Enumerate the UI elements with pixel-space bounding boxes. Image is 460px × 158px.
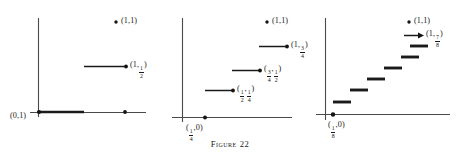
panel-1-dot-half	[124, 65, 128, 69]
panel-1-dot-right-base	[123, 110, 127, 114]
panel-3-label-one-one: (1,1)	[414, 17, 430, 25]
panel-1-label-one-half: (1,12)	[130, 61, 147, 79]
figure-caption-number: 22	[240, 139, 250, 149]
panel-2-dot-half-quarter	[231, 89, 235, 93]
panel-2-dot-one-one	[265, 20, 268, 23]
panel-3-dot-one-one	[407, 20, 410, 23]
panel-2-dot-quarter-zero	[203, 116, 207, 120]
panel-3-arrowhead	[418, 32, 424, 38]
panel-1-dot-one-one	[114, 20, 117, 23]
panel-1-label-one-one: (1,1)	[121, 17, 137, 25]
panel-1-group	[30, 18, 146, 117]
panel-2-label-one-threequarters: (1,34)	[291, 41, 308, 59]
figure-caption-word: Figure	[211, 139, 237, 149]
panel-3-label-one-seveneighths: (1,78)	[426, 30, 443, 48]
figure-caption: Figure22	[0, 139, 460, 149]
panel-3-dot-eighth-zero	[331, 112, 335, 116]
panel-2-label-half-quarter: (12,14)	[237, 85, 254, 103]
figure-drawing-layer	[0, 0, 460, 158]
figure-22: (0,1) (1,1) (1,12) (14,0) (1,1) (1,34) (…	[0, 0, 460, 158]
panel-2-dot-one-threequarter	[285, 45, 289, 49]
panel-1-dot-origin	[37, 110, 41, 114]
panel-2-label-one-one: (1,1)	[272, 17, 288, 25]
panel-1-origin-label: (0,1)	[10, 112, 26, 120]
panel-3-origin-label: (18,0)	[328, 121, 345, 139]
panel-2-label-threequarters-half: (34,12)	[264, 65, 281, 83]
panel-2-dot-threequarter-half	[258, 69, 262, 73]
